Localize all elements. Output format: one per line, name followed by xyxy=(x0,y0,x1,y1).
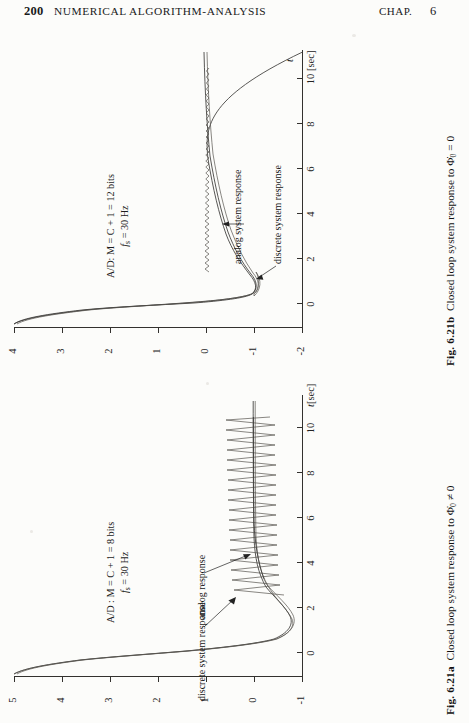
chapter-number: 6 xyxy=(430,4,436,19)
plot-area-b: 4 3 2 1 0 -1 -2 φ [deg] 0 xyxy=(8,44,308,374)
curves-a xyxy=(8,391,308,723)
figure-6-21a-caption-rotated: Fig. 6.21a Closed loop system response t… xyxy=(444,385,462,715)
ad-parameters-a: A/D : M = C + 1 = 8 bits fs = 30 Hz xyxy=(104,522,133,623)
plot-area-a: 5 4 3 2 1 0 -1 φ [deg] 0 2 4 xyxy=(8,391,308,723)
fs-value-b: = 30 Hz xyxy=(119,205,130,238)
fs-value-a: = 30 Hz xyxy=(119,552,130,585)
discrete-curve-b xyxy=(17,52,258,324)
fs-symbol-b: f xyxy=(119,244,130,247)
analog-curve-a xyxy=(14,401,291,674)
discrete-leader-a xyxy=(204,599,234,627)
discrete-oscillation-a xyxy=(226,417,284,595)
annotation-analog-b: analog system response xyxy=(232,170,243,264)
figure-caption-tail-b: = 0 xyxy=(444,136,456,151)
page-number: 200 xyxy=(24,4,44,19)
figure-number-b: Fig. 6.21b xyxy=(444,317,456,366)
textbook-page: 200 NUMERICAL ALGORITHM-ANALYSIS CHAP. 6 xyxy=(0,0,469,723)
curves-b xyxy=(8,44,308,374)
discrete-curve-a xyxy=(14,579,293,674)
figure-caption-tail-a: ≠ 0 xyxy=(444,486,456,501)
scan-speck xyxy=(206,382,209,385)
ad-parameters-line2-b: fs = 30 Hz xyxy=(118,174,133,278)
figure-6-21b-caption-rotated: Fig. 6.21b Closed loop system response t… xyxy=(444,36,462,366)
ad-parameters-line2-a: fs = 30 Hz xyxy=(118,522,133,623)
figure-6-21a-plot-rotated: 5 4 3 2 1 0 -1 φ [deg] 0 2 4 xyxy=(8,391,308,723)
ad-parameters-b: A/D: M = C + 1 = 12 bits fs = 30 Hz xyxy=(104,174,133,278)
figure-caption-sub-b: 0 xyxy=(449,154,458,158)
fs-subscript-a: s xyxy=(123,587,132,590)
figure-caption-text-a: Closed loop system response to Φ̇ xyxy=(444,507,456,661)
running-title: NUMERICAL ALGORITHM-ANALYSIS xyxy=(54,5,266,17)
figure-6-21b-plot-rotated: 4 3 2 1 0 -1 -2 φ [deg] 0 xyxy=(8,44,308,374)
ad-parameters-line1-b: A/D: M = C + 1 = 12 bits xyxy=(104,174,118,278)
annotation-analog-a: analog response xyxy=(196,555,207,619)
running-head: 200 NUMERICAL ALGORITHM-ANALYSIS CHAP. 6 xyxy=(0,4,469,26)
analog-leader-a xyxy=(204,555,248,573)
analog-curve-b xyxy=(14,52,303,324)
fs-subscript-b: s xyxy=(123,241,132,244)
figure-number-a: Fig. 6.21a xyxy=(444,666,456,715)
annotation-discrete-b: discrete system response xyxy=(272,165,283,264)
figure-6-21b: 4 3 2 1 0 -1 -2 φ [deg] 0 xyxy=(0,26,469,374)
figure-caption-text-b: Closed loop system response to Φ̇ xyxy=(444,157,456,311)
ad-parameters-line1-a: A/D : M = C + 1 = 8 bits xyxy=(104,522,118,623)
scan-speck xyxy=(352,34,356,37)
discrete-baseline-a xyxy=(253,417,264,579)
figure-6-21a: 5 4 3 2 1 0 -1 φ [deg] 0 2 4 xyxy=(0,374,469,723)
scan-speck xyxy=(62,12,65,15)
scan-speck xyxy=(30,530,33,533)
fs-symbol-a: f xyxy=(119,590,130,593)
chapter-label: CHAP. xyxy=(379,5,412,17)
analog-curve-b-tail xyxy=(14,52,256,324)
figure-caption-a: Fig. 6.21a Closed loop system response t… xyxy=(444,486,458,715)
figure-caption-sub-a: 0 xyxy=(449,503,458,507)
figure-caption-b: Fig. 6.21b Closed loop system response t… xyxy=(444,136,458,366)
